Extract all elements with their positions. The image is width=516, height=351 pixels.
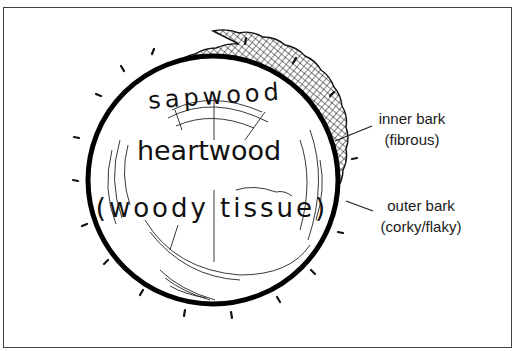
outer-bark-leader <box>346 201 373 211</box>
callout-inner-bark-line2: (fibrous) <box>372 129 452 150</box>
callout-outer-bark: outer bark (corky/flaky) <box>372 195 470 237</box>
callout-inner-bark-line1: inner bark <box>372 108 452 129</box>
label-heartwood: heartwood <box>137 135 281 166</box>
callout-outer-bark-line1: outer bark <box>372 195 470 216</box>
callout-inner-bark: inner bark (fibrous) <box>372 108 452 150</box>
label-woody-tissue: (woody tissue) <box>96 193 329 223</box>
tree-cross-section: sapwood heartwood (woody tissue) <box>0 0 516 351</box>
callout-outer-bark-line2: (corky/flaky) <box>372 216 470 237</box>
